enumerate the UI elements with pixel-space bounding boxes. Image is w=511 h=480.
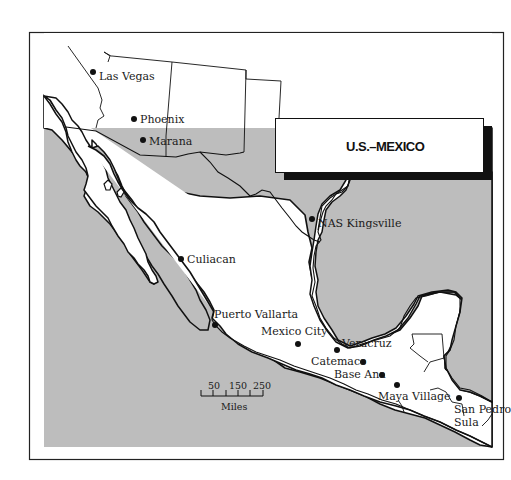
city-marker	[212, 322, 218, 328]
map-title: U.S.–MEXICO	[346, 139, 425, 154]
city-marker	[394, 382, 400, 388]
city-marker	[140, 137, 146, 143]
scale-tick-150: 150	[229, 380, 247, 391]
map: 50 150 250 Miles U.S.–MEXICO Las Vegas P…	[0, 0, 511, 480]
city-label: Phoenix	[140, 113, 185, 126]
city-base-ana[interactable]: Base Ana	[334, 368, 386, 381]
city-label: Mexico City	[261, 325, 328, 338]
map-title-box: U.S.–MEXICO	[276, 119, 493, 181]
city-label: Base Ana	[334, 368, 386, 381]
city-las-vegas[interactable]: Las Vegas	[90, 69, 155, 83]
city-label: NAS Kingsville	[318, 217, 401, 230]
city-marker	[456, 395, 462, 401]
scale-unit-label: Miles	[221, 401, 247, 412]
city-label: Marana	[149, 135, 193, 148]
city-marker	[295, 341, 301, 347]
scale-tick-50: 50	[208, 380, 220, 391]
city-marker	[309, 216, 315, 222]
city-marker	[131, 116, 137, 122]
city-label: Catemaco	[311, 355, 367, 368]
city-label: Culiacan	[187, 253, 236, 266]
city-culiacan[interactable]: Culiacan	[178, 253, 236, 266]
city-nas-kingsville[interactable]: NAS Kingsville	[309, 216, 401, 230]
city-label: Veracruz	[341, 337, 392, 350]
city-marker	[178, 256, 184, 262]
city-label-line1: San Pedro	[454, 403, 511, 416]
city-catemaco[interactable]: Catemaco	[311, 355, 367, 368]
city-marker	[334, 347, 340, 353]
city-marker	[90, 69, 96, 75]
city-label: Puerto Vallarta	[214, 308, 299, 321]
city-label: Las Vegas	[99, 70, 155, 83]
city-label: Maya Village	[378, 390, 451, 403]
city-phoenix[interactable]: Phoenix	[131, 113, 185, 126]
scale-tick-250: 250	[253, 380, 271, 391]
city-label-line2: Sula	[454, 416, 479, 429]
